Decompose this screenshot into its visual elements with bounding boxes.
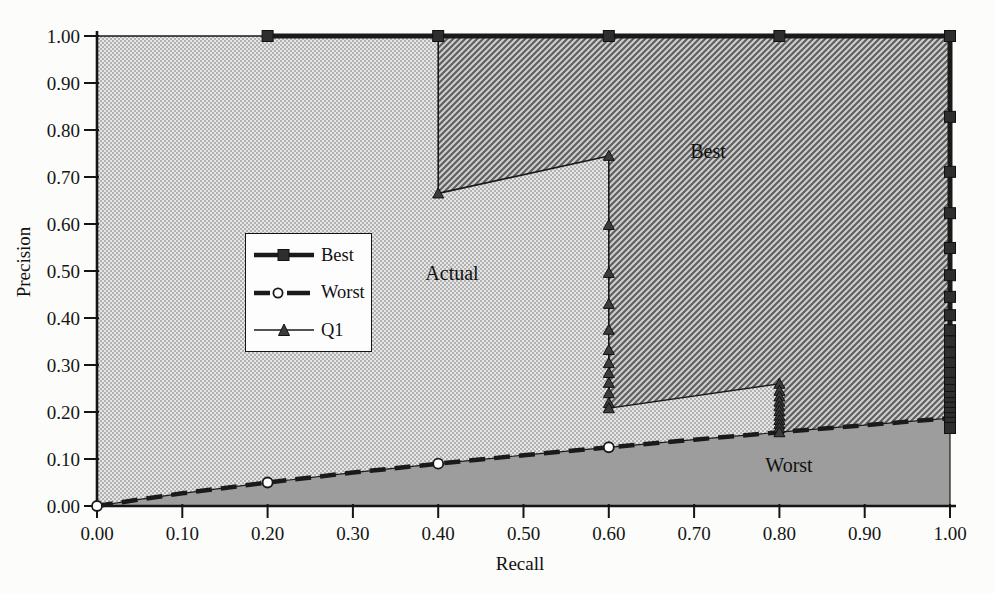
chart-legend: Best Worst Q1 — [245, 233, 372, 352]
best-marker — [945, 111, 956, 122]
best-marker — [945, 208, 956, 219]
best-marker — [945, 347, 956, 358]
svg-text:0.30: 0.30 — [47, 355, 80, 376]
best-marker — [945, 310, 956, 321]
best-marker — [945, 358, 956, 369]
svg-text:0.50: 0.50 — [47, 261, 80, 282]
worst-line-sample-icon — [253, 284, 315, 302]
best-line-sample-icon — [253, 246, 315, 264]
best-marker — [945, 242, 956, 253]
worst-marker — [433, 459, 443, 469]
best-marker — [603, 31, 614, 42]
best-marker — [945, 336, 956, 347]
worst-marker — [604, 442, 614, 452]
svg-text:0.20: 0.20 — [251, 523, 284, 544]
legend-label-q1: Q1 — [321, 321, 344, 340]
svg-text:0.50: 0.50 — [507, 523, 540, 544]
best-marker — [945, 325, 956, 336]
svg-text:1.00: 1.00 — [933, 523, 966, 544]
legend-label-worst: Worst — [321, 283, 365, 302]
best-marker — [433, 31, 444, 42]
best-marker — [774, 31, 785, 42]
svg-text:0.00: 0.00 — [80, 523, 113, 544]
shaded-regions — [97, 36, 950, 506]
svg-text:1.00: 1.00 — [47, 26, 80, 47]
best-marker — [945, 166, 956, 177]
svg-text:0.60: 0.60 — [592, 523, 625, 544]
svg-text:0.60: 0.60 — [47, 214, 80, 235]
svg-text:0.40: 0.40 — [422, 523, 455, 544]
legend-item-worst: Worst — [253, 281, 367, 305]
svg-text:0.10: 0.10 — [47, 449, 80, 470]
svg-text:0.00: 0.00 — [47, 496, 80, 517]
best-marker — [945, 31, 956, 42]
best-marker — [945, 291, 956, 302]
pr-chart-canvas: 0.000.100.200.300.400.500.600.700.800.90… — [0, 0, 994, 594]
legend-label-best: Best — [321, 246, 354, 265]
best-marker — [945, 270, 956, 281]
svg-text:0.80: 0.80 — [763, 523, 796, 544]
svg-text:0.40: 0.40 — [47, 308, 80, 329]
svg-text:0.80: 0.80 — [47, 120, 80, 141]
legend-item-best: Best — [253, 243, 367, 267]
best-marker — [945, 367, 956, 378]
precision-recall-figure: 0.000.100.200.300.400.500.600.700.800.90… — [0, 0, 994, 594]
svg-text:0.90: 0.90 — [47, 73, 80, 94]
best-marker — [945, 422, 956, 433]
worst-marker — [92, 501, 102, 511]
worst-marker — [263, 478, 273, 488]
svg-text:0.20: 0.20 — [47, 402, 80, 423]
svg-text:0.90: 0.90 — [848, 523, 881, 544]
x-axis-label: Recall — [496, 553, 545, 575]
svg-text:0.10: 0.10 — [166, 523, 199, 544]
legend-item-q1: Q1 — [253, 318, 367, 342]
svg-text:0.30: 0.30 — [336, 523, 369, 544]
best-marker — [262, 31, 273, 42]
svg-text:0.70: 0.70 — [677, 523, 710, 544]
q1-line-sample-icon — [253, 321, 315, 339]
y-axis-label: Precision — [13, 227, 35, 298]
svg-text:0.70: 0.70 — [47, 167, 80, 188]
